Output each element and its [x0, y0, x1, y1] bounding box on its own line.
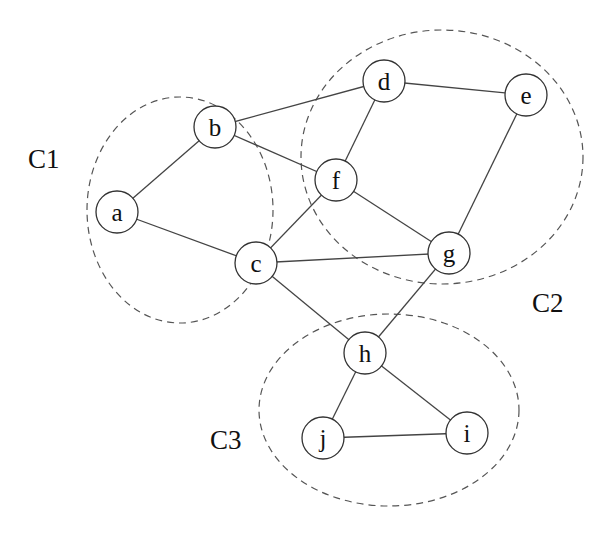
- node-e-label: e: [520, 82, 531, 109]
- node-d-label: d: [378, 68, 391, 95]
- node-g: g: [428, 232, 470, 274]
- node-f: f: [315, 159, 357, 201]
- node-i: i: [446, 412, 488, 454]
- cluster-c3-boundary: [259, 314, 519, 506]
- edge-e-g: [449, 95, 526, 253]
- cluster-c3-label: C3: [210, 425, 242, 455]
- node-h: h: [344, 332, 386, 374]
- cluster-c1-label: C1: [28, 144, 60, 174]
- node-c: c: [235, 242, 277, 284]
- node-e: e: [505, 74, 547, 116]
- node-c-label: c: [250, 250, 261, 277]
- node-j-label: j: [319, 425, 327, 452]
- node-b: b: [194, 106, 236, 148]
- node-b-label: b: [209, 114, 222, 141]
- edge-a-c: [117, 212, 256, 263]
- node-g-label: g: [443, 240, 456, 267]
- node-f-label: f: [332, 167, 341, 194]
- node-h-label: h: [359, 340, 372, 367]
- node-a-label: a: [111, 199, 122, 226]
- node-j: j: [302, 417, 344, 459]
- node-d: d: [363, 60, 405, 102]
- node-a: a: [96, 191, 138, 233]
- edge-b-d: [215, 81, 384, 127]
- cluster-labels-layer: C1C2C3: [28, 144, 564, 455]
- graph-diagram: abcdefghij C1C2C3: [0, 0, 613, 536]
- node-i-label: i: [464, 420, 471, 447]
- cluster-c2-label: C2: [532, 288, 564, 318]
